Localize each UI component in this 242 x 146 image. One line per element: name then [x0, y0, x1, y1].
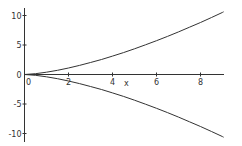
x-tick-label: 8	[198, 78, 203, 87]
x-tick-label: 6	[154, 78, 159, 87]
y-tick-label: 5	[16, 41, 21, 50]
x-tick-label: 2	[66, 78, 71, 87]
series-line	[25, 12, 224, 75]
y-tick-label: -10	[8, 130, 21, 139]
axes	[25, 8, 225, 142]
y-tick-label: 0	[16, 71, 21, 80]
x-axis-label: x	[124, 79, 129, 88]
y-tick-label: -5	[14, 100, 22, 109]
x-tick-label: 0	[26, 78, 31, 87]
chart-plot: 02468-10-50510 x	[0, 0, 242, 146]
y-tick-label: 10	[11, 12, 21, 21]
x-tick-label: 4	[110, 78, 115, 87]
